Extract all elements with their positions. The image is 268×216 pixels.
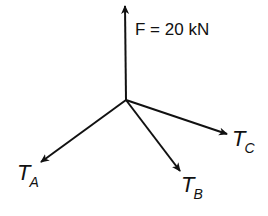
tension-c-subscript: C: [244, 140, 254, 156]
force-f-label: F = 20 kN: [135, 20, 209, 40]
tension-b-arrow: [126, 100, 180, 171]
tension-a-label: TA: [17, 160, 40, 186]
force-vectors: [0, 0, 268, 216]
tension-c-arrow: [126, 100, 227, 134]
tension-a-arrow: [41, 100, 126, 162]
tension-b-label: TB: [181, 172, 204, 198]
tension-b-subscript: B: [193, 186, 202, 202]
force-diagram: F = 20 kN TA TB TC: [0, 0, 268, 216]
tension-c-label: TC: [232, 126, 256, 152]
force-f-arrow: [125, 6, 126, 100]
tension-a-subscript: A: [29, 174, 38, 190]
